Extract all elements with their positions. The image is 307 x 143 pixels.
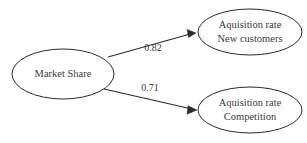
node-acquisition-new-customers[interactable]: Aquisition rate New customers [198, 9, 302, 55]
node-market-share[interactable]: Market Share [12, 49, 114, 99]
node-acquisition-competition[interactable]: Aquisition rate Competition [198, 87, 302, 133]
node-acquisition-competition-label-line-1: Aquisition rate [219, 97, 282, 108]
node-market-share-label-line-1: Market Share [35, 68, 92, 79]
edge-competition-arrowhead [187, 106, 197, 114]
edge-new-customers-arrowhead [187, 29, 196, 37]
node-acquisition-new-customers-label-line-1: Aquisition rate [219, 19, 282, 30]
node-acquisition-competition-label-line-2: Competition [224, 111, 277, 122]
node-acquisition-new-customers-label-line-2: New customers [217, 33, 282, 44]
edge-competition-label: 0.71 [141, 82, 159, 93]
diagram-canvas: 0.82 0.71 Market Share Aquisition rate N… [0, 0, 307, 143]
edge-new-customers-label: 0.82 [144, 42, 162, 53]
edge-new-customers: 0.82 [108, 29, 196, 57]
path-diagram: 0.82 0.71 Market Share Aquisition rate N… [0, 0, 307, 143]
edge-competition: 0.71 [104, 82, 197, 114]
